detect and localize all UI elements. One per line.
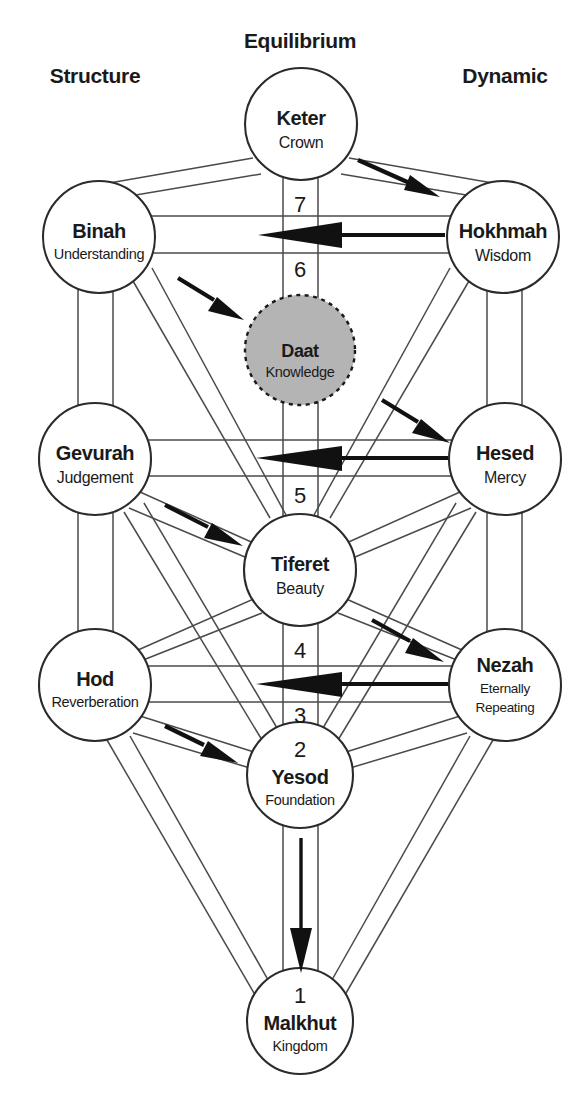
channel-hokhmah-hesed bbox=[487, 288, 522, 408]
hokhmah-translation: Wisdom bbox=[475, 247, 531, 264]
channel-tiferet-hod bbox=[128, 598, 262, 666]
binah-name: Binah bbox=[72, 220, 126, 242]
hesed-name: Hesed bbox=[476, 442, 534, 464]
tiferet-translation: Beauty bbox=[276, 580, 324, 597]
arrow-nezah-to-hod-icon bbox=[256, 672, 448, 697]
path-number-5: 5 bbox=[294, 483, 306, 508]
sephirah-keter[interactable]: Keter Crown bbox=[245, 68, 357, 180]
column-heading-dynamic: Dynamic bbox=[462, 64, 548, 87]
path-number-4: 4 bbox=[294, 638, 306, 663]
keter-translation: Crown bbox=[279, 134, 324, 151]
gevurah-name: Gevurah bbox=[56, 442, 134, 464]
malkhut-name: Malkhut bbox=[264, 1012, 337, 1034]
sephirah-hesed[interactable]: Hesed Mercy bbox=[449, 403, 561, 515]
path-number-3: 3 bbox=[294, 703, 306, 728]
path-number-6: 6 bbox=[294, 257, 306, 282]
malkhut-translation: Kingdom bbox=[272, 1038, 327, 1054]
yesod-name: Yesod bbox=[272, 766, 329, 788]
malkhut-number: 1 bbox=[294, 983, 306, 1008]
channel-binah-gevurah bbox=[78, 288, 113, 408]
daat-translation: Knowledge bbox=[265, 364, 334, 380]
tree-of-life-canvas: Daat Knowledge Keter Crown Binah Underst… bbox=[0, 0, 588, 1106]
sephirah-tiferet[interactable]: Tiferet Beauty bbox=[244, 514, 356, 626]
column-heading-equilibrium: Equilibrium bbox=[244, 29, 356, 52]
channel-hokhmah-tiferet bbox=[314, 268, 469, 518]
channel-nezah-yesod bbox=[346, 716, 467, 768]
nezah-translation-line2: Repeating bbox=[476, 700, 535, 715]
sephirah-nezah[interactable]: Nezah Eternally Repeating bbox=[449, 629, 561, 741]
tiferet-name: Tiferet bbox=[271, 553, 330, 575]
arrow-hod-to-yesod-icon bbox=[165, 726, 238, 763]
arrow-binah-to-daat-icon bbox=[178, 278, 244, 320]
channel-tiferet-nezah bbox=[338, 598, 472, 666]
hod-name: Hod bbox=[76, 668, 114, 690]
channel-gevurah-tiferet bbox=[129, 492, 258, 560]
hokhmah-name: Hokhmah bbox=[459, 220, 547, 242]
channel-hesed-tiferet bbox=[342, 492, 471, 560]
binah-translation: Understanding bbox=[54, 246, 145, 262]
sephirah-gevurah[interactable]: Gevurah Judgement bbox=[39, 403, 151, 515]
column-heading-structure: Structure bbox=[50, 64, 141, 87]
arrow-daat-to-hesed-icon bbox=[382, 400, 450, 443]
keter-name: Keter bbox=[276, 107, 326, 129]
nezah-name: Nezah bbox=[477, 654, 534, 676]
channel-gevurah-hod bbox=[78, 512, 113, 632]
sephirah-malkhut[interactable]: 1 Malkhut Kingdom bbox=[247, 968, 353, 1074]
sephirah-hod[interactable]: Hod Reverberation bbox=[39, 629, 151, 741]
yesod-number: 2 bbox=[294, 737, 306, 762]
arrow-hesed-to-gevurah-icon bbox=[256, 446, 448, 471]
sephirah-hokhmah[interactable]: Hokhmah Wisdom bbox=[447, 181, 559, 293]
hod-translation: Reverberation bbox=[51, 694, 138, 710]
gevurah-translation: Judgement bbox=[57, 469, 134, 486]
channel-binah-tiferet bbox=[133, 268, 286, 518]
arrow-yesod-to-malkhut-icon bbox=[290, 838, 312, 973]
daat-name: Daat bbox=[281, 341, 319, 361]
channel-hesed-nezah bbox=[487, 512, 522, 632]
tree-of-life-diagram: Daat Knowledge Keter Crown Binah Underst… bbox=[0, 0, 588, 1106]
hesed-translation: Mercy bbox=[484, 469, 526, 486]
sephirah-binah[interactable]: Binah Understanding bbox=[43, 181, 155, 293]
path-number-7: 7 bbox=[294, 192, 306, 217]
nezah-translation-line1: Eternally bbox=[480, 681, 530, 696]
arrow-hokhmah-to-binah-icon bbox=[258, 222, 445, 248]
sephirah-yesod[interactable]: 2 Yesod Foundation bbox=[247, 722, 353, 828]
yesod-translation: Foundation bbox=[265, 792, 335, 808]
sephirah-daat[interactable]: Daat Knowledge bbox=[245, 295, 355, 405]
